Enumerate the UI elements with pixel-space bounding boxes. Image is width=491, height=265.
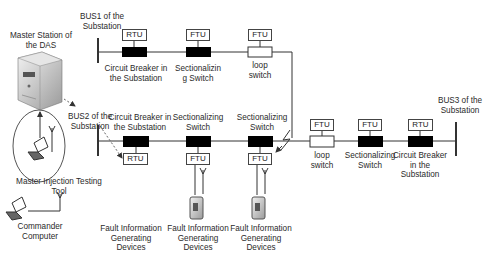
- fault-device-1: [190, 163, 206, 219]
- sectionalizing-label: SectionalizingSwitch: [168, 113, 228, 132]
- breaker-label: Circuit Breaker inthe Substation: [98, 64, 174, 83]
- rtu-box: RTU: [408, 119, 433, 131]
- ftu-box: FTU: [248, 153, 272, 165]
- loop-switch-1-3: [248, 47, 272, 57]
- comm-link-master: [64, 99, 75, 106]
- fault-devices-label: Fault InformationGeneratingDevices: [165, 224, 231, 253]
- breaker-label: Circuit Breaker inthe Substation: [102, 113, 178, 132]
- sectionalizing-1-2: [186, 47, 211, 57]
- server-icon: [18, 52, 62, 110]
- laptop-icon: [28, 137, 48, 160]
- fault-device-2: [252, 163, 268, 219]
- ftu-box: FTU: [186, 29, 210, 41]
- bus3-label: BUS3 of theSubstation: [430, 96, 490, 115]
- commander-label: CommanderComputer: [12, 222, 68, 241]
- ftu-box: FTU: [248, 29, 272, 41]
- fault-devices-label: Fault InformationGeneratingDevices: [228, 224, 294, 253]
- breaker-1-1: [122, 47, 147, 57]
- ftu-box: FTU: [358, 119, 382, 131]
- breaker-label: Circuit Breakerin theSubstation: [392, 151, 448, 180]
- master-station-label: Master Station ofthe DAS: [4, 31, 78, 50]
- fault-devices-label: Fault InformationGeneratingDevices: [98, 224, 164, 253]
- loop-switch-label: loopswitch: [236, 61, 284, 80]
- sectionalizing-label: SectionalizingSwitch: [340, 151, 400, 170]
- bus1-label: BUS1 of theSubstation: [72, 12, 132, 31]
- sectionalizing-label: SectionalizingSwitch: [232, 113, 292, 132]
- sectionalizing-label: Sectionalizing Switch: [168, 64, 228, 83]
- ftu-box: FTU: [186, 153, 210, 165]
- rtu-box: RTU: [123, 153, 148, 165]
- injection-tool-label: Master Injection TestingTool: [12, 177, 106, 196]
- ftu-box: FTU: [310, 119, 334, 131]
- fault-lightning-icon: [281, 130, 290, 150]
- commander-laptop-icon: [6, 197, 26, 220]
- loop-switch-label: loopswitch: [298, 151, 346, 170]
